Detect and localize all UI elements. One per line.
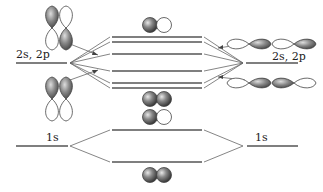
left-valence-label: 2s, 2p [16, 48, 50, 61]
sigma-2s-orbital [143, 92, 172, 107]
right-p-orbitals-bottom [227, 78, 316, 88]
left-p-orbitals-bottom [46, 77, 73, 121]
right-p-orbitals-top [227, 39, 316, 49]
core-mo-levels [112, 130, 202, 162]
right-valence-label: 2s, 2p [272, 50, 306, 63]
sigma-star-1s-orbital [143, 110, 172, 125]
arrowheads [92, 45, 223, 79]
right-core-label: 1s [255, 131, 268, 144]
sigma-star-2s-orbital [143, 18, 172, 33]
valence-mo-levels [112, 37, 202, 88]
left-core-label: 1s [46, 131, 59, 144]
left-p-orbitals-top [46, 6, 73, 50]
mo-diagram [0, 0, 323, 192]
sigma-1s-orbital [143, 168, 172, 183]
